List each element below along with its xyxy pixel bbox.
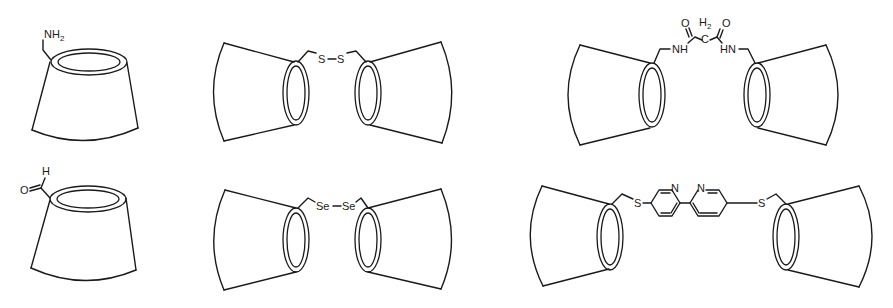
left-cone-bottom-edge: [224, 125, 294, 141]
rim-inner: [57, 190, 119, 208]
left-cone-bottom-edge: [543, 269, 609, 286]
left-cone-top-edge: [580, 45, 650, 63]
sulfur-label-2: S: [337, 53, 344, 65]
right-cone-outer-arc: [859, 186, 872, 287]
linker-right-ch2: [739, 49, 755, 63]
carbonyl-right-2: [720, 30, 723, 38]
selenium-label-2: Se: [342, 200, 355, 212]
methylene-label: H2: [699, 16, 712, 31]
linker-left-ch2: [654, 49, 670, 63]
nitrogen-label-2: N: [697, 182, 705, 194]
oxygen-label: O: [20, 184, 29, 196]
right-rim-inner: [359, 66, 377, 120]
right-cone-bottom-edge: [368, 272, 441, 289]
hydrogen-label: H: [42, 165, 50, 177]
cone-bottom-arc: [32, 128, 138, 141]
left-rim-inner: [287, 66, 305, 120]
disulfide-dimer: S S: [214, 42, 452, 143]
left-cone-outer-arc: [530, 186, 543, 286]
rim-inner: [58, 53, 120, 71]
left-rim-inner: [287, 213, 305, 267]
pyridine-ring-right: [690, 190, 727, 216]
left-rim-inner: [601, 209, 619, 265]
carbonyl-bond-1: [30, 188, 41, 191]
oxygen-label-left: O: [681, 17, 690, 29]
linker-right-bond: [356, 198, 368, 208]
linker-left-ch2: [612, 194, 633, 204]
cone-side-left: [31, 200, 50, 268]
right-cone-top-edge: [368, 189, 441, 208]
cone-side-right: [127, 63, 138, 128]
carbonyl-right-1: [717, 29, 720, 37]
sulfur-label-1: S: [318, 53, 325, 65]
linker-right-ch2: [767, 194, 786, 204]
right-cone-bottom-edge: [370, 125, 442, 143]
right-cone-outer-arc: [441, 42, 452, 143]
right-cone-outer-arc: [441, 189, 452, 289]
cone-side-right: [126, 198, 136, 270]
amide-left-bond: [688, 37, 702, 43]
cone-side-left: [32, 62, 50, 130]
formyl-bond: [41, 178, 50, 198]
selenium-label-1: Se: [316, 200, 329, 212]
left-cone-outer-arc: [568, 45, 580, 145]
left-cone-bottom-edge: [224, 272, 296, 290]
right-rim-inner: [359, 213, 377, 267]
left-cone-outer-arc: [214, 43, 225, 141]
carbonyl-left-1: [686, 29, 689, 37]
right-cone-top-edge: [758, 45, 826, 63]
right-cone-bottom-edge: [758, 128, 826, 145]
aminomethyl-bond: [43, 40, 51, 60]
nh-label-right: HN: [720, 43, 736, 55]
sulfur-label-1: S: [634, 197, 641, 209]
right-rim-inner: [777, 209, 795, 265]
diselenide-dimer: Se Se: [214, 189, 452, 290]
cyclodextrin-diagram: NH2 O H S S: [0, 0, 893, 308]
amino-cyclodextrin: NH2: [32, 28, 138, 141]
carbonyl-left-2: [689, 28, 692, 36]
right-rim-inner: [748, 68, 766, 122]
nh2-label: NH2: [44, 28, 65, 43]
nitrogen-label-1: N: [671, 182, 679, 194]
right-cone-top-edge: [788, 186, 859, 204]
left-cone-bottom-edge: [580, 128, 650, 145]
oxygen-label-right: O: [722, 17, 731, 29]
left-cone-top-edge: [542, 186, 609, 204]
left-cone-outer-arc: [214, 190, 225, 290]
sulfur-label-2: S: [758, 197, 765, 209]
bipyridine-dimer: S N N S: [530, 182, 872, 287]
carbonyl-bond-2: [30, 185, 40, 188]
right-cone-top-edge: [370, 42, 441, 62]
left-rim-inner: [643, 68, 661, 122]
right-cone-bottom-edge: [788, 270, 859, 287]
linker-left-bond: [298, 51, 316, 62]
left-cone-top-edge: [225, 190, 296, 208]
malonamide-dimer: NH HN O O H2 C: [568, 16, 838, 145]
carbon-label: C: [701, 33, 709, 45]
linker-left-bond: [298, 198, 315, 208]
aldehyde-cyclodextrin: O H: [20, 165, 136, 281]
right-cone-outer-arc: [826, 45, 838, 145]
linker-right-bond: [347, 51, 366, 62]
cone-bottom-arc: [31, 268, 136, 281]
nh-label-left: NH: [672, 43, 688, 55]
left-cone-top-edge: [224, 43, 294, 62]
